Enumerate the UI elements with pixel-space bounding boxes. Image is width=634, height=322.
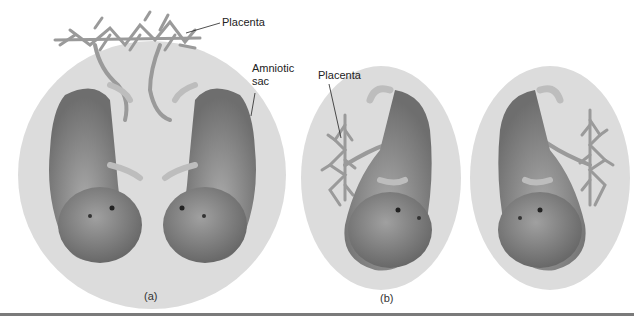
twins-diagram [0,0,634,322]
bottom-rule [0,313,634,316]
label-amniotic-sac-line2: sac [252,75,269,88]
caption-a: (a) [144,290,157,302]
label-amniotic-sac-line1: Amniotic [252,62,294,75]
placenta-leader-a [186,23,220,33]
label-placenta-a: Placenta [222,16,265,29]
label-placenta-b: Placenta [318,69,361,82]
panel-b [301,66,630,290]
caption-b: (b) [380,292,393,304]
panel-a [18,12,286,309]
